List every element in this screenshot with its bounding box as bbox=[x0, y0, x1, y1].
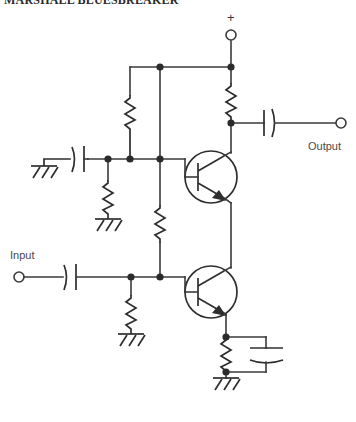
transistor-q2 bbox=[185, 266, 237, 337]
transistor-q2-collector-lead bbox=[198, 271, 224, 286]
resistor-feedback-middle bbox=[155, 159, 165, 277]
input-label: Input bbox=[10, 249, 34, 261]
resistor-base-q1-ground bbox=[95, 180, 122, 231]
ground-base-q2 bbox=[118, 334, 145, 346]
output-terminal[interactable] bbox=[336, 118, 346, 128]
output-branch-group: Output bbox=[231, 109, 346, 153]
ground-base-q1 bbox=[95, 219, 122, 231]
supply-terminal[interactable] bbox=[226, 30, 236, 40]
junction-dots-group bbox=[104, 63, 234, 375]
base-rail-q1-group bbox=[88, 159, 185, 180]
ground-emitter-q2 bbox=[213, 378, 240, 390]
junction-base-rail-q1 bbox=[156, 155, 163, 162]
resistor-collector-q1 bbox=[226, 83, 236, 123]
transistor-q1-collector-wire bbox=[224, 152, 231, 156]
junction-top-rail-supply bbox=[227, 63, 234, 70]
transistor-q1-collector-lead bbox=[198, 156, 224, 171]
capacitor-output-coupling-plate-curved bbox=[272, 109, 275, 137]
junction-base-rail-left bbox=[104, 155, 111, 162]
capacitor-input-coupling-plate-curved bbox=[64, 265, 67, 290]
junction-top-rail-left bbox=[156, 63, 163, 70]
capacitor-bias-decoupling-plate-curved bbox=[72, 147, 75, 172]
junction-emitter-q2-bottom bbox=[222, 368, 229, 375]
circuit-schematic-canvas: + Output bbox=[0, 0, 356, 422]
transistor-q2-collector-wire bbox=[224, 267, 231, 271]
supply-plus-label: + bbox=[227, 10, 235, 25]
resistor-emitter-q2 bbox=[221, 337, 231, 372]
emitter-network-q2 bbox=[213, 337, 283, 390]
resistor-base-q2-ground bbox=[118, 295, 145, 346]
bias-decoupling-group bbox=[31, 146, 88, 178]
junction-base-q2-mid bbox=[156, 273, 163, 280]
transistor-q1 bbox=[185, 151, 237, 203]
schematic-figure: MARSHALL BLUESBREAKER + bbox=[0, 0, 356, 422]
supply-rail-group bbox=[130, 41, 231, 159]
junction-base-q2-left bbox=[127, 273, 134, 280]
ground-bias-decoupling bbox=[31, 159, 58, 178]
junction-emitter-q2-top bbox=[222, 333, 229, 340]
junction-collector-q1 bbox=[227, 119, 234, 126]
input-branch-group: Input bbox=[10, 249, 185, 295]
resistor-bias-upper bbox=[125, 95, 135, 159]
junction-base-rail-mid bbox=[126, 155, 133, 162]
output-label: Output bbox=[308, 140, 341, 152]
input-terminal[interactable] bbox=[14, 272, 24, 282]
